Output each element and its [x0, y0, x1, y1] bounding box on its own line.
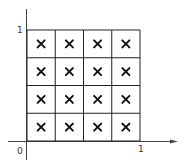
- x-tick-label: 1: [138, 144, 144, 154]
- origin-label: 0: [17, 146, 23, 156]
- x-axis-arrow-icon: [170, 140, 178, 144]
- y-tick-label: 1: [17, 25, 23, 35]
- grid-diagram: [0, 0, 189, 167]
